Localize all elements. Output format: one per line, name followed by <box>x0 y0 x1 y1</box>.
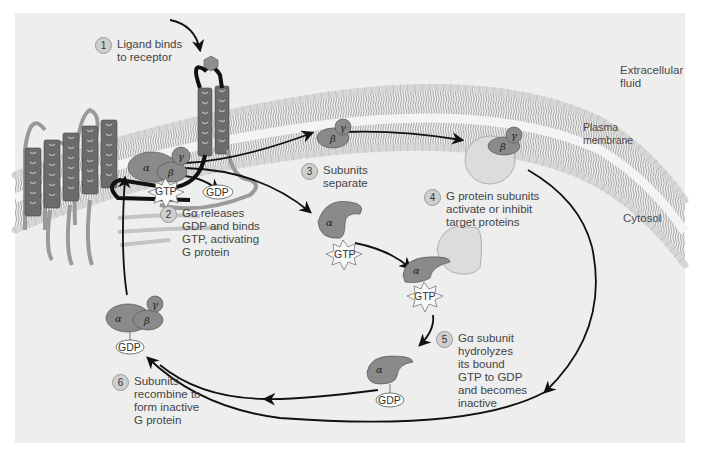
step-number-badge: 5 <box>436 331 453 348</box>
svg-text:β: β <box>499 141 506 152</box>
g-protein-heterotrimer-inactive: α β γ GDP <box>106 296 163 354</box>
svg-text:γ: γ <box>152 299 158 310</box>
plasma-membrane-label: Plasma membrane <box>583 121 633 147</box>
svg-text:α: α <box>413 265 420 276</box>
svg-text:α: α <box>143 162 150 173</box>
step-number-badge: 3 <box>301 163 318 180</box>
svg-text:γ: γ <box>511 130 517 141</box>
step-6: 6 Subunits recombine to form inactive G … <box>112 375 200 427</box>
svg-text:GDP: GDP <box>118 341 141 353</box>
step-text: Subunits separate <box>323 164 368 190</box>
svg-text:α: α <box>326 217 333 228</box>
step-text: Subunits recombine to form inactive G pr… <box>134 375 200 427</box>
svg-text:β: β <box>329 133 336 144</box>
step-1: 1 Ligand binds to receptor <box>95 38 182 64</box>
step-5: 5 Gα subunit hydrolyzes its bound GTP to… <box>436 332 527 410</box>
step-4: 4 G protein subunits activate or inhibit… <box>424 190 539 229</box>
step-text: Gα releases GDP and binds GTP, activatin… <box>182 207 260 259</box>
step-number-badge: 2 <box>160 206 177 223</box>
g-protein-cycle-diagram: α β γ GTP GDP β γ α GTP β γ α GTP <box>0 0 701 453</box>
svg-text:β: β <box>167 167 174 178</box>
svg-text:β: β <box>143 315 150 326</box>
extracellular-fluid-label: Extracellular fluid <box>620 64 683 90</box>
svg-text:α: α <box>376 364 383 375</box>
svg-text:γ: γ <box>340 122 346 133</box>
alpha-gtp-target-protein: α GTP <box>403 226 482 312</box>
alpha-gtp-subunit: α GTP <box>318 201 362 270</box>
step-text: Gα subunit hydrolyzes its bound GTP to G… <box>458 332 527 410</box>
step-text: Ligand binds to receptor <box>117 38 182 64</box>
step-2: 2 Gα releases GDP and binds GTP, activat… <box>160 207 260 259</box>
step-3: 3 Subunits separate <box>301 164 368 190</box>
step-text: G protein subunits activate or inhibit t… <box>446 190 539 229</box>
svg-text:GTP: GTP <box>155 185 177 197</box>
step-number-badge: 4 <box>424 189 441 206</box>
alpha-gdp-subunit: α GDP <box>367 356 413 407</box>
svg-text:α: α <box>115 313 122 324</box>
svg-text:GTP: GTP <box>414 290 436 302</box>
cytosol-label: Cytosol <box>623 212 661 225</box>
step-number-badge: 1 <box>95 37 112 54</box>
svg-text:GTP: GTP <box>334 248 356 260</box>
svg-text:γ: γ <box>178 151 184 162</box>
svg-text:GDP: GDP <box>206 186 229 198</box>
step-number-badge: 6 <box>112 374 129 391</box>
svg-text:GDP: GDP <box>378 394 401 406</box>
